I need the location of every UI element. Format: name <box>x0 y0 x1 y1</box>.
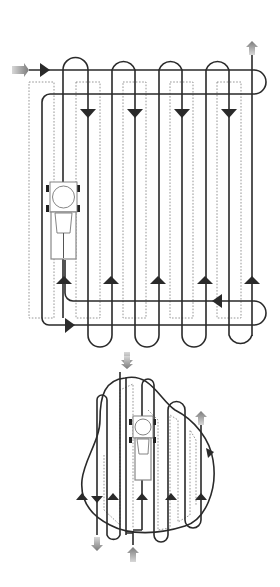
rectangular-field-panel <box>12 41 266 366</box>
entry-arrow-icon <box>12 63 29 77</box>
entry-arrow-icon <box>127 547 139 562</box>
direction-arrow-icon <box>221 109 237 118</box>
direction-arrow-icon <box>40 63 50 77</box>
entry-arrow-icon <box>121 356 133 369</box>
field-pattern-diagram <box>0 0 280 587</box>
irregular-field-panel <box>76 356 214 562</box>
exit-arrow-icon <box>195 411 207 425</box>
direction-arrow-icon <box>136 493 148 500</box>
direction-arrow-icon <box>91 496 103 503</box>
exit-arrow-icon <box>246 41 258 55</box>
direction-arrow-icon <box>212 294 222 308</box>
direction-arrow-icon <box>103 276 119 284</box>
tractor-icon <box>129 416 156 480</box>
direction-arrow-icon <box>195 493 207 500</box>
direction-arrow-icon <box>174 109 190 118</box>
direction-arrow-icon <box>76 493 88 500</box>
direction-arrow-icon <box>197 276 213 284</box>
direction-arrow-icon <box>107 493 119 500</box>
direction-arrow-icon <box>80 109 96 118</box>
direction-arrow-icon <box>56 276 72 284</box>
exit-arrow-icon <box>91 537 103 551</box>
direction-arrow-icon <box>127 109 143 118</box>
tractor-icon <box>46 182 80 259</box>
direction-arrow-icon <box>150 276 166 284</box>
direction-arrow-icon <box>244 276 260 284</box>
direction-arrow-icon <box>165 493 177 500</box>
direction-arrow-icon <box>65 318 75 333</box>
